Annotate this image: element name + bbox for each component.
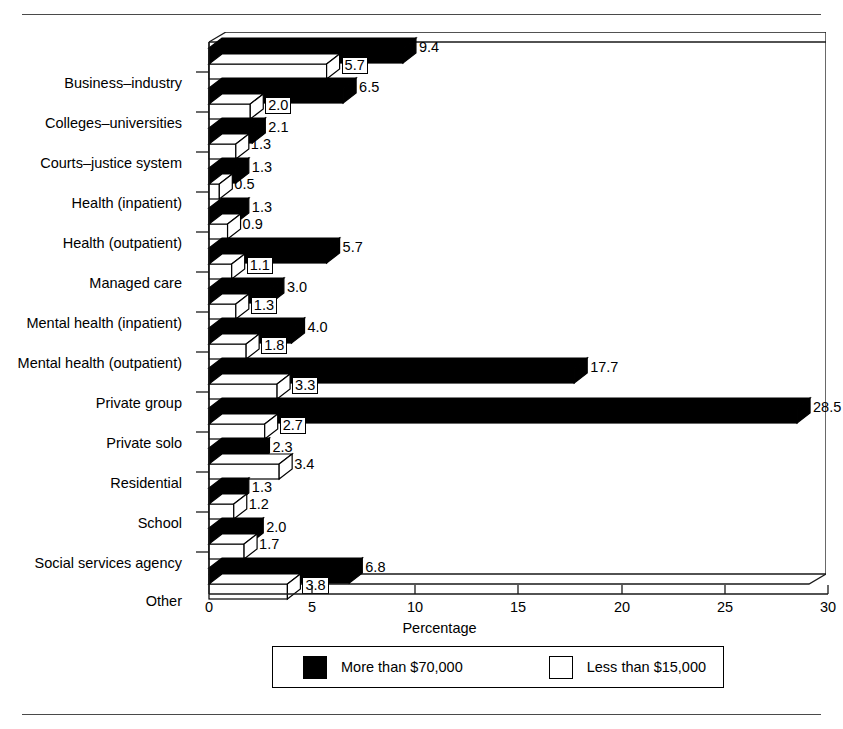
x-tick-label-5: 5 (308, 600, 316, 615)
x-axis-title: Percentage (0, 620, 843, 636)
legend-swatch-dark-icon (303, 656, 327, 679)
x-tick-label-10: 10 (407, 600, 423, 615)
legend-item-more-than-70000: More than $70,000 (303, 656, 463, 679)
x-tick-label-25: 25 (717, 600, 733, 615)
legend-label-less-than-15000: Less than $15,000 (587, 659, 706, 675)
figure-root: Business–industry Colleges–universities … (0, 0, 843, 729)
legend-label-more-than-70000: More than $70,000 (341, 659, 463, 675)
legend-swatch-light-icon (549, 656, 573, 679)
x-tick-label-0: 0 (205, 600, 213, 615)
x-axis-ticks (209, 585, 828, 594)
legend: More than $70,000 Less than $15,000 (272, 646, 724, 688)
x-tick-label-30: 30 (820, 600, 836, 615)
x-tick-label-20: 20 (614, 600, 630, 615)
x-tick-label-15: 15 (510, 600, 526, 615)
legend-item-less-than-15000: Less than $15,000 (549, 656, 706, 679)
x-axis: 0 5 10 15 20 25 30 Percentage (0, 0, 843, 729)
x-axis-title-text: Percentage (402, 620, 476, 636)
